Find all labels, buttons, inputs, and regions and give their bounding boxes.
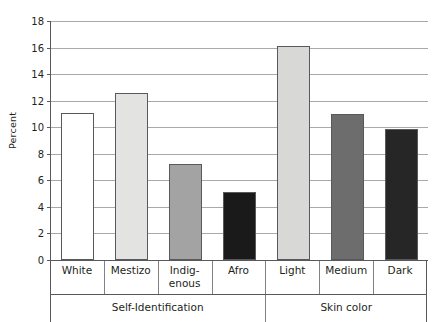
category-divider [212, 261, 213, 295]
y-tick-mark-10 [47, 127, 51, 128]
y-tick-mark-18 [47, 21, 51, 22]
category-band-left-edge [50, 261, 51, 295]
y-axis-title-label: Percent [8, 111, 19, 148]
y-tick-label-2: 2 [38, 228, 44, 239]
gridline-12 [51, 101, 428, 102]
category-band-right-edge [426, 261, 427, 295]
gridline-16 [51, 48, 428, 49]
group-label-selfidentification: Self-Identification [50, 297, 265, 317]
bar-chart: Percent 024681012141618 WhiteMestizoIndi… [0, 0, 447, 322]
category-label-line1: Medium [325, 264, 367, 277]
y-tick-label-6: 6 [38, 175, 44, 186]
category-label-dark: Dark [373, 261, 427, 295]
y-tick-mark-12 [47, 101, 51, 102]
gridline-18 [51, 21, 428, 22]
y-axis-title: Percent [0, 0, 26, 260]
y-tick-label-0: 0 [38, 255, 44, 266]
bar-light [277, 46, 310, 260]
category-divider [104, 261, 105, 295]
category-label-mestizo: Mestizo [104, 261, 158, 295]
bar-indig-enous [169, 164, 202, 260]
gridline-6 [51, 180, 428, 181]
bar-medium [331, 114, 364, 260]
category-divider [158, 261, 159, 295]
y-tick-label-14: 14 [31, 69, 44, 80]
y-tick-label-16: 16 [31, 42, 44, 53]
group-band-right-edge [426, 295, 427, 322]
gridline-14 [51, 74, 428, 75]
y-tick-mark-8 [47, 154, 51, 155]
bar-white [61, 113, 94, 260]
category-label-line1: White [62, 264, 93, 277]
category-label-line1: Mestizo [111, 264, 151, 277]
gridline-8 [51, 154, 428, 155]
group-band-left-edge [50, 295, 51, 322]
category-label-line1: Afro [228, 264, 249, 277]
group-divider [265, 295, 266, 322]
y-tick-label-10: 10 [31, 122, 44, 133]
plot-area: 024681012141618 [50, 21, 427, 260]
category-label-band: WhiteMestizoIndig-enousAfroLightMediumDa… [50, 260, 427, 294]
category-label-light: Light [265, 261, 319, 295]
y-tick-mark-6 [47, 180, 51, 181]
category-divider [373, 261, 374, 295]
y-tick-mark-16 [47, 48, 51, 49]
category-label-line1: Light [279, 264, 305, 277]
category-label-indig: Indig-enous [158, 261, 212, 295]
bar-dark [385, 129, 418, 260]
y-tick-mark-14 [47, 74, 51, 75]
category-divider [319, 261, 320, 295]
category-label-line1: Dark [388, 264, 413, 277]
y-tick-mark-4 [47, 207, 51, 208]
bar-afro [223, 192, 256, 260]
y-tick-label-8: 8 [38, 148, 44, 159]
y-tick-label-4: 4 [38, 201, 44, 212]
group-label-band: Self-IdentificationSkin color [50, 294, 427, 322]
group-label-skincolor: Skin color [265, 297, 427, 317]
gridline-10 [51, 127, 428, 128]
category-divider [265, 261, 266, 295]
category-label-medium: Medium [319, 261, 373, 295]
category-label-afro: Afro [212, 261, 266, 295]
category-label-white: White [50, 261, 104, 295]
y-tick-label-18: 18 [31, 16, 44, 27]
y-tick-label-12: 12 [31, 95, 44, 106]
bar-mestizo [115, 93, 148, 260]
y-tick-mark-2 [47, 233, 51, 234]
category-label-line1: Indig- [170, 264, 200, 277]
category-label-line2: enous [169, 277, 201, 290]
